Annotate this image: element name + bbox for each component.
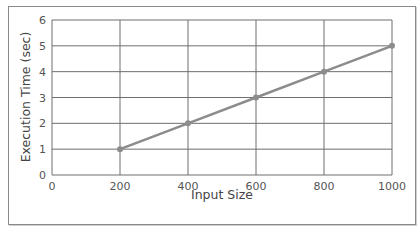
x-tick-label: 1000 — [378, 180, 406, 193]
data-point — [321, 69, 327, 75]
y-tick-label: 4 — [39, 66, 46, 79]
line-chart: 0123456 02004006008001000 Input Size Exe… — [0, 0, 419, 233]
data-point — [253, 95, 259, 101]
y-tick-label: 6 — [39, 14, 46, 27]
y-tick-label: 5 — [39, 40, 46, 53]
data-point — [117, 146, 123, 152]
x-tick-label: 200 — [110, 180, 131, 193]
y-tick-label: 2 — [39, 117, 46, 130]
x-axis-label: Input Size — [191, 187, 253, 202]
y-axis-label: Execution Time (sec) — [18, 32, 33, 163]
data-point — [389, 43, 395, 49]
data-point — [185, 120, 191, 126]
y-axis-ticks: 0123456 — [39, 14, 46, 182]
y-tick-label: 0 — [39, 169, 46, 182]
gridlines — [52, 20, 392, 175]
x-tick-label: 0 — [49, 180, 56, 193]
y-tick-label: 1 — [39, 143, 46, 156]
x-tick-label: 800 — [314, 180, 335, 193]
y-tick-label: 3 — [39, 92, 46, 105]
